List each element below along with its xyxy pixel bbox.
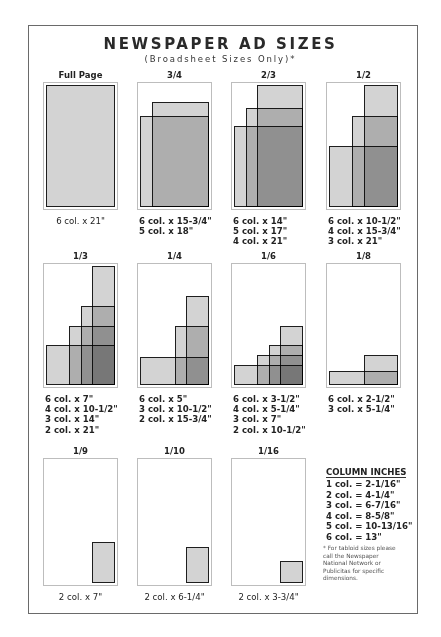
- ad-size-label: 1/2: [326, 70, 401, 80]
- ad-shape: [280, 326, 303, 386]
- ad-shape: [257, 85, 303, 207]
- ad-size-label: 1/10: [137, 446, 212, 456]
- ad-size-label: 3/4: [137, 70, 212, 80]
- column-inches-row: 4 col. = 8-5/8": [326, 511, 416, 522]
- ad-size-label: 1/16: [231, 446, 306, 456]
- ad-size-panel: [43, 458, 118, 586]
- page-title: NEWSPAPER AD SIZES: [0, 35, 441, 53]
- page-subtitle: (Broadsheet Sizes Only)*: [0, 54, 441, 64]
- ad-size-dimensions: 2 col. x 6-1/4": [129, 592, 220, 602]
- ad-size-dimension: 2 col. x 6-1/4": [129, 592, 220, 602]
- ad-size-dimensions: 6 col. x 2-1/2"3 col. x 5-1/4": [328, 394, 418, 414]
- ad-size-panel: [43, 82, 118, 210]
- ad-shape: [92, 266, 115, 385]
- ad-size-label: 1/6: [231, 251, 306, 261]
- column-inches-row: 5 col. = 10-13/16": [326, 521, 416, 532]
- ad-size-dimensions: 6 col. x 3-1/2"4 col. x 5-1/4"3 col. x 7…: [233, 394, 323, 435]
- ad-size-dimension: 3 col. x 10-1/2": [139, 404, 229, 414]
- ad-shape: [186, 296, 209, 385]
- ad-size-panel: [231, 458, 306, 586]
- ad-size-dimension: 6 col. x 15-3/4": [139, 216, 229, 226]
- ad-size-label: 1/8: [326, 251, 401, 261]
- ad-size-dimension: 6 col. x 7": [45, 394, 135, 404]
- ad-size-label: 1/9: [43, 446, 118, 456]
- ad-shape: [186, 547, 209, 583]
- column-inches-heading: COLUMN INCHES: [326, 467, 406, 478]
- column-inches-table: COLUMN INCHES 1 col. = 2-1/16" 2 col. = …: [326, 460, 416, 542]
- ad-size-dimensions: 6 col. x 15-3/4"5 col. x 18": [139, 216, 229, 236]
- ad-size-dimension: 2 col. x 15-3/4": [139, 414, 229, 424]
- ad-size-dimensions: 6 col. x 14"5 col. x 17"4 col. x 21": [233, 216, 323, 247]
- ad-size-dimension: 4 col. x 10-1/2": [45, 404, 135, 414]
- ad-size-dimensions: 6 col. x 7"4 col. x 10-1/2"3 col. x 14"2…: [45, 394, 135, 435]
- ad-size-dimensions: 2 col. x 3-3/4": [223, 592, 314, 602]
- ad-size-label: 1/3: [43, 251, 118, 261]
- ad-size-dimension: 4 col. x 15-3/4": [328, 226, 418, 236]
- ad-size-dimension: 6 col. x 2-1/2": [328, 394, 418, 404]
- ad-size-dimension: 6 col. x 3-1/2": [233, 394, 323, 404]
- ad-size-dimensions: 2 col. x 7": [35, 592, 126, 602]
- ad-size-dimension: 3 col. x 14": [45, 414, 135, 424]
- ad-size-panel: [231, 82, 306, 210]
- ad-size-dimension: 3 col. x 21": [328, 236, 418, 246]
- ad-shape: [364, 85, 399, 207]
- ad-size-panel: [326, 263, 401, 388]
- ad-shape: [364, 355, 399, 385]
- ad-shape: [92, 542, 115, 583]
- ad-size-dimension: 5 col. x 18": [139, 226, 229, 236]
- ad-size-dimension: 4 col. x 21": [233, 236, 323, 246]
- ad-size-dimensions: 6 col. x 21": [35, 216, 126, 226]
- ad-size-panel: [231, 263, 306, 388]
- ad-size-label: Full Page: [43, 70, 118, 80]
- column-inches-row: 3 col. = 6-7/16": [326, 500, 416, 511]
- ad-shape: [46, 85, 115, 207]
- column-inches-row: 2 col. = 4-1/4": [326, 490, 416, 501]
- ad-size-dimension: 6 col. x 21": [35, 216, 126, 226]
- ad-size-dimension: 2 col. x 3-3/4": [223, 592, 314, 602]
- ad-size-panel: [137, 458, 212, 586]
- ad-size-dimension: 2 col. x 7": [35, 592, 126, 602]
- ad-size-dimensions: 6 col. x 5"3 col. x 10-1/2"2 col. x 15-3…: [139, 394, 229, 425]
- ad-size-dimension: 3 col. x 7": [233, 414, 323, 424]
- ad-size-dimension: 2 col. x 10-1/2": [233, 425, 323, 435]
- column-inches-row: 6 col. = 13": [326, 532, 416, 543]
- ad-size-dimension: 3 col. x 5-1/4": [328, 404, 418, 414]
- column-inches-row: 1 col. = 2-1/16": [326, 479, 416, 490]
- ad-size-dimension: 6 col. x 14": [233, 216, 323, 226]
- ad-size-panel: [43, 263, 118, 388]
- ad-size-panel: [137, 263, 212, 388]
- ad-size-panel: [137, 82, 212, 210]
- ad-size-dimension: 5 col. x 17": [233, 226, 323, 236]
- ad-size-dimension: 4 col. x 5-1/4": [233, 404, 323, 414]
- ad-size-dimension: 2 col. x 21": [45, 425, 135, 435]
- ad-shape: [280, 561, 303, 583]
- ad-size-dimension: 6 col. x 10-1/2": [328, 216, 418, 226]
- ad-size-panel: [326, 82, 401, 210]
- ad-size-dimensions: 6 col. x 10-1/2"4 col. x 15-3/4"3 col. x…: [328, 216, 418, 247]
- ad-size-dimension: 6 col. x 5": [139, 394, 229, 404]
- ad-size-label: 1/4: [137, 251, 212, 261]
- tabloid-footnote: * For tabloid sizes please call the News…: [323, 545, 403, 583]
- ad-size-label: 2/3: [231, 70, 306, 80]
- ad-shape: [152, 102, 210, 207]
